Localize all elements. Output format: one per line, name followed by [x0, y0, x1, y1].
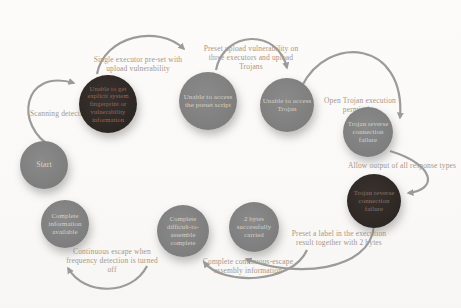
node-trojan-reverse-failure-1: Trojan reverse connection failure: [343, 107, 393, 157]
node-no-trojan-access-label: Unable to access Trojan: [260, 95, 314, 116]
edge-label-continuous-escape-frequency: Continuous escape when frequency detecti…: [62, 247, 162, 274]
node-info-available-label: Complete information available: [41, 210, 89, 238]
node-no-trojan-access: Unable to access Trojan: [260, 78, 314, 132]
node-start: Start: [20, 141, 68, 189]
edge-label-single-executor: Single executor pre-set with upload vuln…: [84, 55, 192, 73]
node-start-label: Start: [34, 158, 54, 171]
node-trojan-reverse-failure-2-label: Trojan reverse connection failure: [347, 187, 401, 215]
node-no-fingerprint-label: Unable to get explicit system fingerprin…: [79, 83, 137, 126]
node-trojan-reverse-failure-1-label: Trojan reverse connection failure: [343, 118, 393, 146]
node-no-preset-script: Unable to access the preset script: [179, 72, 237, 130]
node-trojan-reverse-failure-2: Trojan reverse connection failure: [347, 174, 401, 228]
node-two-bytes-carried-label: 2 bytes successfully carried: [229, 213, 279, 241]
edge-label-complete-continuous-escape: Complete continuous-escape assembly info…: [198, 257, 298, 275]
cycle-diagram: Scanning detection Single executor pre-s…: [0, 0, 461, 308]
node-info-available: Complete information available: [41, 200, 89, 248]
edge-label-preset-label: Preset a label in the execution result t…: [286, 229, 392, 247]
node-difficult-assemble: Complete difficult-to-assemble complete: [157, 205, 209, 257]
node-no-preset-script-label: Unable to access the preset script: [179, 91, 237, 112]
node-difficult-assemble-label: Complete difficult-to-assemble complete: [157, 213, 209, 248]
edge-label-preset-upload: Preset upload vulnerability on three exe…: [199, 44, 303, 71]
node-two-bytes-carried: 2 bytes successfully carried: [229, 202, 279, 252]
edge-label-allow-output: Allow output of all response types: [345, 161, 459, 170]
node-no-fingerprint: Unable to get explicit system fingerprin…: [79, 75, 137, 133]
